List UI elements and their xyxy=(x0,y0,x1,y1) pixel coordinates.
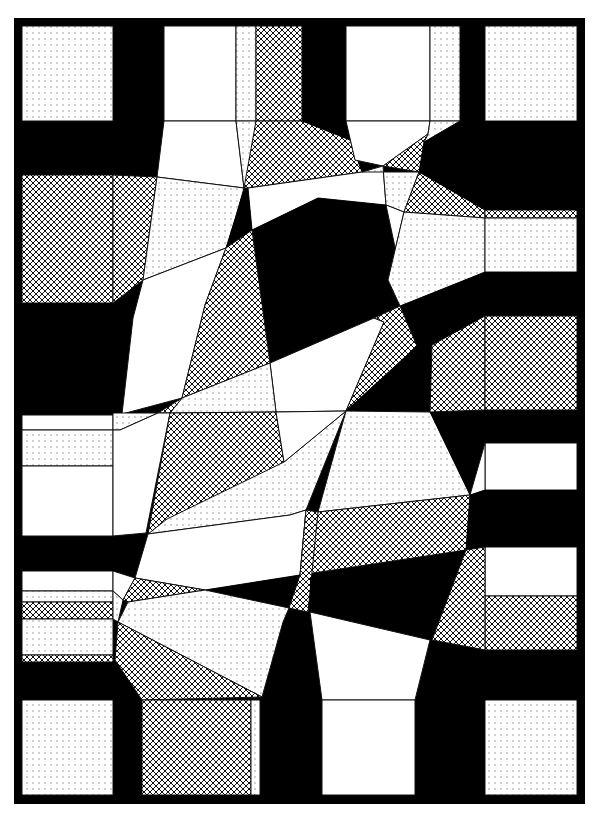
hatch-left-strip-e-shape xyxy=(22,655,113,662)
white-right-row-shape xyxy=(485,443,577,490)
top-col2-hatch-shape xyxy=(256,26,302,121)
dots-right-block-shape xyxy=(485,218,577,272)
hatch-right-row-lower-shape xyxy=(485,596,577,650)
top-col3-dots-strip-shape xyxy=(430,26,460,121)
dots-bottom-strip-shape xyxy=(251,700,260,795)
dots-left-strip-b-shape xyxy=(22,591,113,602)
white-right-row-lower-shape xyxy=(485,547,577,596)
funnel-left-white-shape xyxy=(157,121,244,188)
left-hatch-block-shape xyxy=(22,175,113,303)
top-col3-white-shape xyxy=(346,26,430,121)
square-top-right-shape xyxy=(485,26,577,121)
hatch-band-right-strip-shape xyxy=(485,210,577,218)
square-bottom-left-shape xyxy=(22,700,113,795)
square-top-left-shape xyxy=(22,26,113,121)
white-left-row3-shape xyxy=(22,466,113,536)
hatch-left-strip-c-shape xyxy=(22,602,113,619)
dots-left-strip-d-shape xyxy=(22,619,113,655)
white-left-row1-shape xyxy=(22,415,113,430)
hatch-right-block-shape xyxy=(485,316,577,410)
white-bottom-block-shape xyxy=(322,700,415,795)
hatch-bottom-block-shape xyxy=(142,700,251,795)
black-band-lower-right-shape xyxy=(466,490,577,550)
square-bottom-right-shape xyxy=(485,700,577,795)
top-col1-dots-strip-shape xyxy=(236,26,256,121)
top-col1-white-shape xyxy=(164,26,236,121)
white-left-strip-a-shape xyxy=(22,571,113,591)
geometric-artwork xyxy=(0,0,597,817)
dots-left-row2-shape xyxy=(22,430,113,466)
